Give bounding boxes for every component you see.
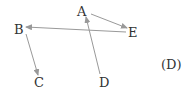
- edge-b-c: [26, 34, 38, 75]
- node-c: C: [34, 76, 44, 89]
- option-label: (D): [161, 57, 182, 72]
- graph-edges: [0, 0, 190, 91]
- node-b: B: [14, 23, 24, 36]
- node-d: D: [99, 76, 109, 89]
- edge-a-e: [91, 14, 127, 28]
- node-e: E: [128, 26, 138, 39]
- edge-d-a: [86, 17, 100, 74]
- edge-e-b: [26, 27, 126, 32]
- node-a: A: [77, 5, 86, 18]
